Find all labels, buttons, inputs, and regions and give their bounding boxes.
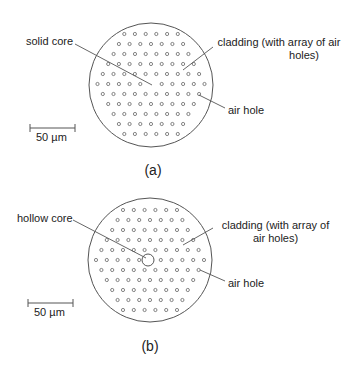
air-hole-icon xyxy=(182,42,185,45)
air-hole-icon xyxy=(116,258,119,261)
air-hole-icon xyxy=(181,278,184,281)
air-hole-icon xyxy=(101,92,104,95)
air-hole-icon xyxy=(139,62,142,65)
air-hole-icon xyxy=(105,258,108,261)
air-hole-icon xyxy=(148,218,151,221)
air-hole-icon xyxy=(165,208,168,211)
air-hole-icon xyxy=(155,92,158,95)
air-hole-icon xyxy=(143,248,146,251)
air-hole-icon xyxy=(127,258,130,261)
air-hole-icon xyxy=(192,102,195,105)
air-hole-icon xyxy=(111,228,114,231)
air-hole-icon xyxy=(154,228,157,231)
air-hole-icon xyxy=(107,82,110,85)
air-hole-icon xyxy=(144,32,147,35)
air-hole-icon xyxy=(175,248,178,251)
air-hole-icon xyxy=(181,258,184,261)
air-hole-icon xyxy=(165,248,168,251)
air-hole-icon xyxy=(117,62,120,65)
air-hole-icon xyxy=(197,248,200,251)
cladding-pointer-line-b xyxy=(183,228,213,245)
air-hole-icon xyxy=(170,218,173,221)
air-hole-icon xyxy=(132,208,135,211)
panel-caption-b: (b) xyxy=(141,338,158,354)
air-hole-icon xyxy=(203,82,206,85)
air-hole-icon xyxy=(176,112,179,115)
air-hole-icon xyxy=(128,102,131,105)
air-hole-icon xyxy=(155,72,158,75)
air-hole-icon xyxy=(176,32,179,35)
air-hole-icon xyxy=(149,122,152,125)
air-hole-icon xyxy=(148,278,151,281)
air-hole-icon xyxy=(160,62,163,65)
air-hole-icon xyxy=(112,72,115,75)
air-hole-icon xyxy=(117,82,120,85)
air-hole-icon xyxy=(123,92,126,95)
air-hole-icon xyxy=(170,298,173,301)
air-hole-icon xyxy=(160,82,163,85)
air-hole-icon xyxy=(149,62,152,65)
air-hole-icon xyxy=(127,218,130,221)
air-hole-icon xyxy=(139,102,142,105)
cladding-label-b-line2: air holes) xyxy=(213,232,338,245)
air-hole-icon xyxy=(123,112,126,115)
air-hole-icon xyxy=(165,72,168,75)
air-hole-icon xyxy=(133,92,136,95)
air-hole-icon xyxy=(175,268,178,271)
air-hole-icon xyxy=(166,132,169,135)
air-hole-icon xyxy=(121,288,124,291)
air-hole-icon xyxy=(123,72,126,75)
air-hole-icon xyxy=(112,52,115,55)
hollow-core-label: hollow core xyxy=(17,212,73,225)
air-hole-icon xyxy=(181,298,184,301)
air-hole-icon xyxy=(101,72,104,75)
air-hole-icon xyxy=(187,112,190,115)
air-hole-icon xyxy=(138,258,141,261)
air-hole-icon xyxy=(121,268,124,271)
air-hole-icon xyxy=(117,102,120,105)
air-hole-icon xyxy=(155,132,158,135)
scale-bar-label-b: 50 µm xyxy=(34,306,65,318)
cladding-label-a: cladding (with array of air holes) xyxy=(213,36,345,62)
air-hole-icon xyxy=(105,238,108,241)
air-hole-icon xyxy=(170,278,173,281)
air-hole-icon xyxy=(154,208,157,211)
air-hole-icon xyxy=(166,52,169,55)
air-hole-icon xyxy=(100,248,103,251)
air-hole-icon xyxy=(94,258,97,261)
air-hole-icon xyxy=(171,62,174,65)
air-hole-icon xyxy=(144,112,147,115)
air-hole-icon xyxy=(116,278,119,281)
panel-caption-a: (a) xyxy=(144,162,161,178)
air-hole-icon xyxy=(138,238,141,241)
scale-bar-label-a: 50 µm xyxy=(36,131,67,143)
air-hole-icon xyxy=(155,112,158,115)
core-pointer-line-a xyxy=(75,44,152,85)
cladding-label-a-line2: holes) xyxy=(213,49,345,62)
cladding-label-b: cladding (with array of air holes) xyxy=(213,219,338,245)
air-hole-icon xyxy=(121,308,124,311)
air-hole-icon xyxy=(160,122,163,125)
air-hole-label-b: air hole xyxy=(228,277,264,290)
air-hole-icon xyxy=(149,102,152,105)
air-hole-icon xyxy=(154,268,157,271)
air-hole-icon xyxy=(117,42,120,45)
air-hole-icon xyxy=(159,218,162,221)
air-hole-icon xyxy=(154,248,157,251)
air-hole-icon xyxy=(170,238,173,241)
air-hole-icon xyxy=(132,228,135,231)
air-hole-icon xyxy=(143,208,146,211)
air-hole-icon xyxy=(143,288,146,291)
air-hole-icon xyxy=(138,218,141,221)
air-hole-icon xyxy=(202,258,205,261)
air-hole-icon xyxy=(176,132,179,135)
air-hole-icon xyxy=(154,288,157,291)
air-hole-icon xyxy=(160,42,163,45)
air-hole-icon xyxy=(139,122,142,125)
air-hole-icon xyxy=(165,288,168,291)
air-hole-icon xyxy=(192,82,195,85)
air-hole-icon xyxy=(170,258,173,261)
air-hole-icon xyxy=(132,268,135,271)
air-hole-icon xyxy=(175,228,178,231)
core-pointer-line-b xyxy=(73,220,146,258)
